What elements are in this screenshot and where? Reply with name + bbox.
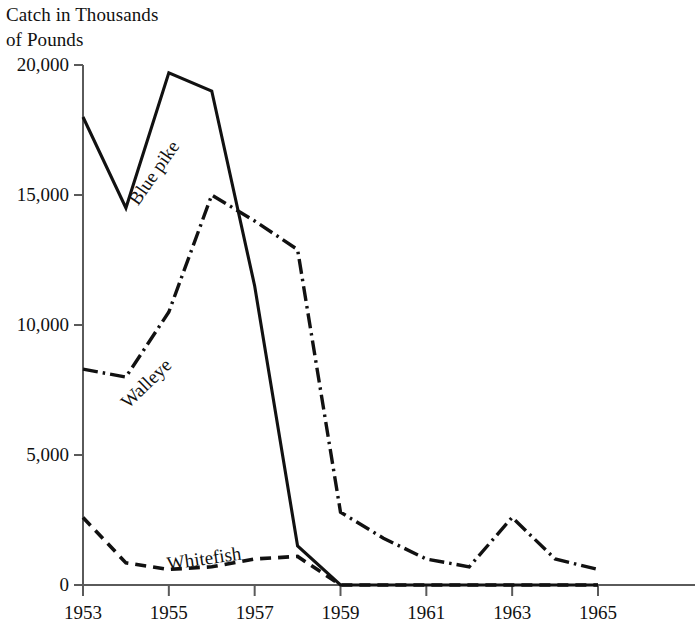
x-tick-label: 1965 [579,602,617,624]
x-tick-label: 1959 [322,602,360,624]
plot-area [0,0,699,636]
x-tick-label: 1955 [150,602,188,624]
x-tick-label: 1963 [493,602,531,624]
x-tick-label: 1961 [407,602,445,624]
y-tick-label: 0 [0,574,69,596]
y-tick-label: 15,000 [0,184,69,206]
y-axis-ticks [74,65,83,585]
x-tick-label: 1953 [64,602,102,624]
fishery-catch-line-chart: Catch in Thousandsof Pounds 05,00010,000… [0,0,699,636]
x-axis-ticks [83,585,598,596]
y-tick-label: 5,000 [0,444,69,466]
y-tick-label: 10,000 [0,314,69,336]
y-tick-label: 20,000 [0,54,69,76]
x-tick-label: 1957 [236,602,274,624]
